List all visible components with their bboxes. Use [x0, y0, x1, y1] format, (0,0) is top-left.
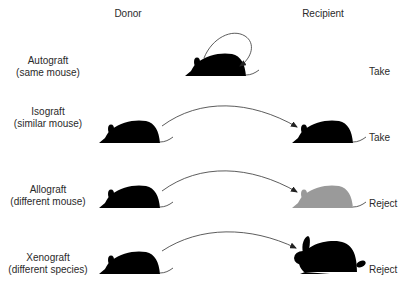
- xenograft-donor-mouse-icon: [99, 251, 173, 274]
- graft-diagram: [0, 0, 415, 285]
- autograft-mouse-icon: [185, 53, 259, 76]
- xenograft-recipient-rabbit-icon: [294, 236, 367, 274]
- isograft-donor-mouse-icon: [99, 120, 173, 143]
- allograft-arrow: [162, 171, 297, 192]
- isograft-recipient-mouse-icon: [292, 120, 366, 143]
- xenograft-arrow: [162, 232, 296, 251]
- isograft-arrow: [162, 106, 297, 127]
- allograft-donor-mouse-icon: [99, 185, 173, 208]
- allograft-recipient-mouse-icon: [292, 185, 366, 208]
